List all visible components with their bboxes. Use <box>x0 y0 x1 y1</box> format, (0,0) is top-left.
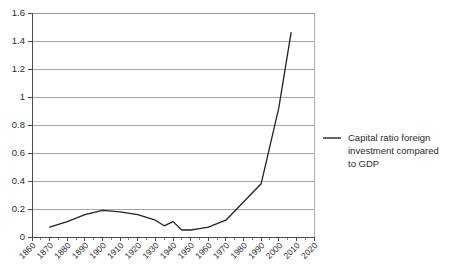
x-tick-label: 1890 <box>70 240 91 261</box>
x-tick-label: 1970 <box>211 240 232 261</box>
y-tick-label: 0.4 <box>12 175 25 186</box>
y-tick-label: 1.6 <box>12 7 25 18</box>
x-tick-label: 1950 <box>176 240 197 261</box>
line-chart: 00.20.40.60.811.21.41.6 1860187018801890… <box>0 0 461 279</box>
x-tick-label: 1940 <box>158 240 179 261</box>
x-tick-label: 1900 <box>87 240 108 261</box>
data-series-group <box>50 33 291 230</box>
y-tick-label: 1.4 <box>12 35 25 46</box>
x-tick-label: 2010 <box>281 240 302 261</box>
y-tick-label: 0 <box>20 231 25 242</box>
x-tick-label: 1860 <box>17 240 38 261</box>
y-tick-label: 1.2 <box>12 63 25 74</box>
legend-label-line2: investment compared <box>348 145 439 156</box>
series-line <box>50 33 291 230</box>
legend-label-line1: Capital ratio foreign <box>348 132 430 143</box>
x-axis-labels: 1860187018801890190019101920193019401950… <box>17 240 320 261</box>
x-tick-label: 1910 <box>105 240 126 261</box>
x-tick-label: 2000 <box>264 240 285 261</box>
chart-container: 00.20.40.60.811.21.41.6 1860187018801890… <box>0 0 461 279</box>
y-axis-ticks <box>28 13 32 237</box>
y-tick-label: 1 <box>20 91 25 102</box>
y-axis-labels: 00.20.40.60.811.21.41.6 <box>12 7 25 242</box>
chart-legend: Capital ratio foreign investment compare… <box>323 132 439 169</box>
x-tick-label: 1920 <box>123 240 144 261</box>
y-tick-label: 0.2 <box>12 203 25 214</box>
x-axis-ticks <box>32 237 314 241</box>
x-tick-label: 1990 <box>246 240 267 261</box>
x-tick-label: 1870 <box>35 240 56 261</box>
y-tick-label: 0.8 <box>12 119 25 130</box>
y-tick-label: 0.6 <box>12 147 25 158</box>
x-tick-label: 1980 <box>228 240 249 261</box>
x-tick-label: 1930 <box>140 240 161 261</box>
x-tick-label: 2020 <box>299 240 320 261</box>
legend-label-line3: to GDP <box>348 158 379 169</box>
x-tick-label: 1960 <box>193 240 214 261</box>
gridlines-group <box>32 13 314 209</box>
x-tick-label: 1880 <box>52 240 73 261</box>
